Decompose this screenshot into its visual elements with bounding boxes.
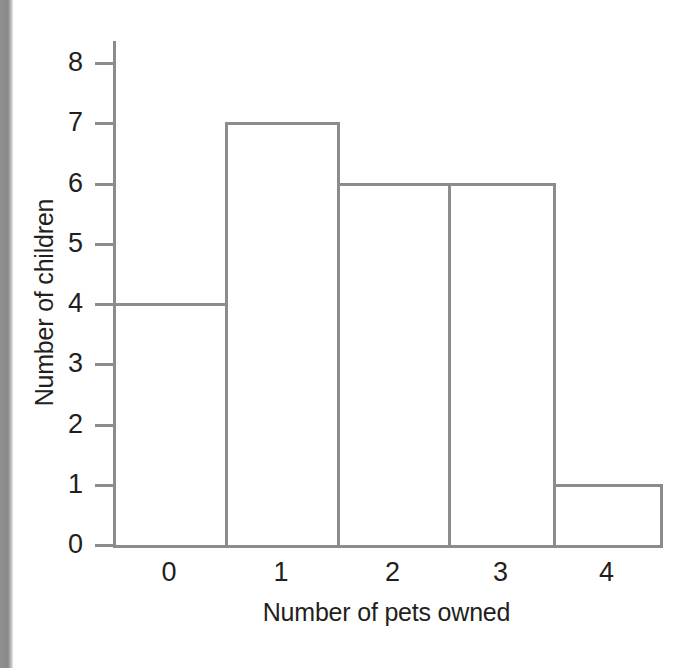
- bar-4: [553, 484, 663, 548]
- bar-2: [337, 183, 451, 549]
- y-axis-tick-1: 1: [95, 484, 113, 487]
- histogram-figure: Number of children Number of pets owned …: [0, 0, 692, 668]
- y-axis-tick-3: 3: [95, 363, 113, 366]
- y-axis-tick-label-8: 8: [43, 47, 83, 77]
- y-axis-tick-0: 0: [95, 544, 113, 547]
- y-axis-tick-label-2: 2: [43, 409, 83, 439]
- y-axis-tick-label-5: 5: [43, 228, 83, 258]
- plot-area: 012345678 01234: [113, 41, 660, 548]
- x-axis-tick-label-4: 4: [553, 557, 660, 587]
- y-axis-tick-label-4: 4: [43, 288, 83, 318]
- x-axis-tick-label-3: 3: [448, 557, 553, 587]
- y-axis-tick-6: 6: [95, 183, 113, 186]
- y-axis-tick-2: 2: [95, 424, 113, 427]
- bar-0: [113, 303, 228, 548]
- y-axis-tick-label-7: 7: [43, 107, 83, 137]
- bar-1: [225, 122, 340, 548]
- x-axis-tick-label-2: 2: [337, 557, 448, 587]
- y-axis-tick-5: 5: [95, 243, 113, 246]
- bar-3: [448, 183, 556, 549]
- y-axis-tick-4: 4: [95, 303, 113, 306]
- y-axis-tick-7: 7: [95, 122, 113, 125]
- x-axis-title: Number of pets owned: [113, 600, 660, 625]
- y-axis-tick-8: 8: [95, 62, 113, 65]
- y-axis-tick-label-0: 0: [43, 529, 83, 559]
- y-axis-tick-label-1: 1: [43, 469, 83, 499]
- x-axis-tick-label-0: 0: [113, 557, 225, 587]
- y-axis-tick-label-3: 3: [43, 348, 83, 378]
- x-axis-tick-label-1: 1: [225, 557, 337, 587]
- y-axis-tick-label-6: 6: [43, 168, 83, 198]
